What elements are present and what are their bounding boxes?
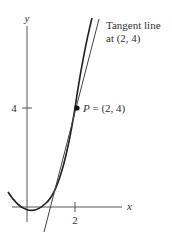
point-p-coords: = (2, 4) [90, 102, 126, 115]
tangent-label-line1: Tangent line [106, 19, 161, 31]
y-axis-label: y [24, 12, 30, 24]
tangent-label-line2: at (2, 4) [106, 32, 141, 45]
parabola-curve [8, 18, 92, 210]
point-p-label: P = (2, 4) [82, 102, 126, 115]
tangent-line [44, 19, 99, 232]
point-p [74, 105, 79, 110]
tangent-line-diagram: y x 2 4 Tangent line at (2, 4) P = (2, 4… [0, 0, 172, 236]
y-tick-label: 4 [11, 102, 17, 114]
x-tick-label: 2 [72, 214, 78, 226]
x-axis-label: x [126, 200, 132, 212]
